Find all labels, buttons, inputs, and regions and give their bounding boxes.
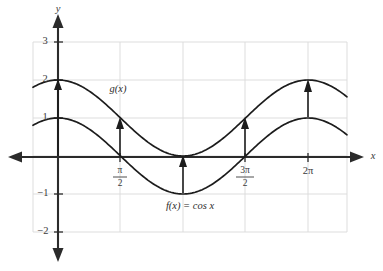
x-axis-arrow-left: [8, 152, 22, 163]
axes: [8, 14, 364, 262]
pi-over-2-denominator: 2: [118, 178, 123, 188]
three-pi-over-2-numerator: 3π: [240, 165, 250, 175]
x-tick-label-pi-over-2: π 2: [113, 165, 127, 188]
y-tick-label-3: 3: [42, 35, 47, 46]
shift-arrow-at-pi-over-2: [116, 117, 124, 156]
x-axis-arrow-right: [350, 152, 364, 163]
y-axis-arrow-up: [53, 14, 64, 28]
x-tick-label-3pi-over-2: 3π 2: [236, 165, 254, 188]
pi-over-2-numerator: π: [118, 165, 123, 175]
y-tick-label-neg2: −2: [37, 225, 48, 236]
y-tick-label-neg1: −1: [37, 187, 48, 198]
curve-label-g: g(x): [110, 83, 127, 95]
shift-arrow-at-pi: [179, 155, 187, 193]
curve-label-f: f(x) = cos x: [166, 200, 215, 212]
cosine-shift-figure: 3 2 1 −1 −2 π 2 3π 2 2π y x g(x) f(x) = …: [0, 0, 383, 271]
y-axis-label: y: [55, 3, 61, 14]
three-pi-over-2-denominator: 2: [243, 178, 248, 188]
y-tick-label-1: 1: [42, 111, 47, 122]
shift-arrow-at-2pi: [304, 79, 312, 117]
x-tick-label-2pi: 2π: [303, 165, 314, 176]
y-tick-label-2: 2: [42, 73, 47, 84]
plot-canvas: 3 2 1 −1 −2 π 2 3π 2 2π y x g(x) f(x) = …: [0, 0, 383, 271]
y-axis-arrow-down: [53, 248, 64, 262]
shift-arrow-at-3pi-over-2: [241, 117, 249, 156]
x-axis-label: x: [370, 150, 376, 161]
